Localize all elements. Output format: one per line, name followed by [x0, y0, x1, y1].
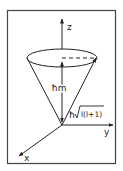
magnitude-prefix-label: ħ [69, 110, 75, 120]
y-axis-label: y [104, 127, 110, 137]
z-axis-label: z [67, 22, 72, 32]
x-axis [19, 125, 62, 156]
z-projection-label: ħm [51, 83, 66, 93]
magnitude-radicand-label: l(l+1) [81, 110, 102, 119]
diagram-canvas: z y x ħm ħ l(l+1) [0, 0, 123, 171]
x-axis-label: x [24, 153, 30, 163]
